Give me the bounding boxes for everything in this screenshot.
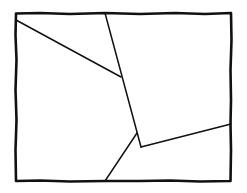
line-c (141, 124, 231, 147)
line-d (105, 133, 137, 181)
outer-frame (16, 13, 232, 182)
line-a (16, 20, 121, 77)
diagram-canvas (0, 0, 247, 193)
line-b (105, 13, 141, 147)
